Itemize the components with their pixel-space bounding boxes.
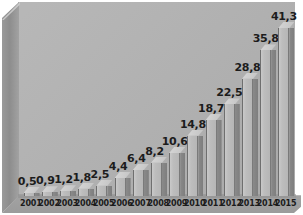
bar-side-face — [126, 178, 131, 196]
x-axis-label-2001: 2001 — [20, 199, 40, 209]
bar-2011 — [206, 120, 217, 196]
x-axis-label-2003: 2003 — [57, 199, 77, 209]
bar-front-face — [96, 186, 107, 196]
bar-2009 — [169, 153, 180, 196]
x-axis-label-2006: 2006 — [111, 199, 131, 209]
bar-2015 — [278, 28, 289, 196]
bar-front-face — [60, 191, 71, 196]
bar-front-face — [169, 153, 180, 196]
x-axis-label-2014: 2014 — [257, 199, 277, 209]
bar-value-label-2015: 41,3 — [271, 11, 293, 22]
bar-value-label-2009: 10,6 — [162, 136, 184, 147]
bar-2010 — [187, 136, 198, 196]
bar-side-face — [180, 153, 185, 196]
bar-front-face — [24, 193, 35, 196]
bar-2008 — [151, 163, 162, 196]
x-axis-label-2010: 2010 — [184, 199, 204, 209]
bar-2012 — [224, 104, 235, 196]
x-axis-label-2011: 2011 — [202, 199, 222, 209]
bar-value-label-2012: 22,5 — [216, 87, 238, 98]
bar-value-label-2010: 14,8 — [180, 119, 202, 130]
bar-2004 — [78, 189, 89, 196]
bar-2005 — [96, 186, 107, 196]
bar-side-face — [253, 79, 258, 196]
chart-plot-area: 0,50,91,21,82,54,46,48,210,614,818,722,5… — [2, 2, 301, 213]
bar-value-label-2014: 35,8 — [253, 33, 275, 44]
bar-value-label-2013: 28,8 — [235, 62, 257, 73]
bar-front-face — [187, 136, 198, 196]
x-axis-label-2015: 2015 — [275, 199, 295, 209]
bar-front-face — [278, 28, 289, 196]
x-axis-label-2004: 2004 — [75, 199, 95, 209]
bar-side-face — [35, 193, 40, 196]
bar-2014 — [260, 50, 271, 196]
bar-side-face — [71, 191, 76, 196]
bar-side-face — [235, 104, 240, 196]
bar-front-face — [224, 104, 235, 196]
x-axis-label-2002: 2002 — [38, 199, 58, 209]
bar-2003 — [60, 191, 71, 196]
x-axis-label-2005: 2005 — [93, 199, 113, 209]
bar-2002 — [42, 192, 53, 196]
bar-side-face — [198, 136, 203, 196]
bar-side-face — [217, 120, 222, 196]
bar-front-face — [115, 178, 126, 196]
bar-2007 — [133, 170, 144, 196]
bar-2001 — [24, 193, 35, 196]
bar-side-face — [162, 163, 167, 196]
bar-value-label-2011: 18,7 — [198, 103, 220, 114]
bar-2013 — [242, 79, 253, 196]
bar-front-face — [42, 192, 53, 196]
bar-front-face — [78, 189, 89, 196]
x-axis-label-2008: 2008 — [148, 199, 168, 209]
bar-side-face — [107, 186, 112, 196]
bar-side-face — [144, 170, 149, 196]
bar-chart: 0,50,91,21,82,54,46,48,210,614,818,722,5… — [0, 0, 303, 215]
x-axis-label-2007: 2007 — [129, 199, 149, 209]
chart-x-axis-labels: 2001200220032004200520062007200820092010… — [0, 199, 303, 213]
bar-front-face — [151, 163, 162, 196]
bar-side-face — [89, 189, 94, 196]
x-axis-label-2009: 2009 — [166, 199, 186, 209]
x-axis-label-2012: 2012 — [220, 199, 240, 209]
bar-side-face — [271, 50, 276, 196]
x-axis-label-2013: 2013 — [239, 199, 259, 209]
bar-front-face — [242, 79, 253, 196]
chart-bars-layer: 0,50,91,21,82,54,46,48,210,614,818,722,5… — [2, 2, 301, 213]
bar-side-face — [53, 192, 58, 196]
bar-2006 — [115, 178, 126, 196]
bar-front-face — [206, 120, 217, 196]
bar-side-face — [289, 28, 294, 196]
bar-front-face — [260, 50, 271, 196]
bar-front-face — [133, 170, 144, 196]
